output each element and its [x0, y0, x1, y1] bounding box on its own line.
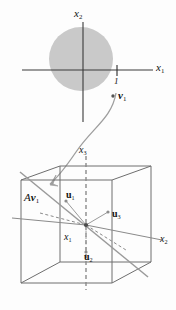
x1-axis-3d-line [12, 218, 86, 225]
origin-dot [84, 223, 88, 227]
u1-label: u1 [66, 190, 75, 200]
v1-dot [111, 94, 114, 97]
x1-axis-3d-label: x1 [64, 232, 72, 242]
x2-axis-label: x2 [74, 8, 82, 19]
v1-label: v1 [118, 90, 126, 101]
figure-canvas [0, 0, 176, 310]
u2-label: u2 [84, 252, 93, 262]
u3-label: u3 [112, 209, 121, 219]
Av1-label: Av1 [24, 192, 39, 203]
unit-disk [49, 27, 113, 91]
unit-tick-label: 1 [114, 77, 119, 86]
u3-dot [106, 210, 109, 213]
math-figure: x2 x1 1 v1 x3 Av1 u1 u3 u2 x1 x2 [0, 0, 176, 310]
u3-line [86, 212, 108, 225]
x3-axis-label: x3 [79, 145, 87, 155]
x2-axis-3d-label: x2 [160, 234, 168, 244]
x1-axis-label: x1 [156, 62, 164, 73]
